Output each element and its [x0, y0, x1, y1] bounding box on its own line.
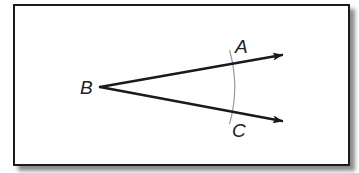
ray-BC — [100, 87, 282, 121]
ray-BA — [100, 55, 282, 87]
angle-diagram — [0, 0, 359, 173]
label-point-A: A — [235, 37, 248, 56]
label-point-C: C — [232, 121, 246, 140]
label-vertex-B: B — [80, 78, 93, 97]
